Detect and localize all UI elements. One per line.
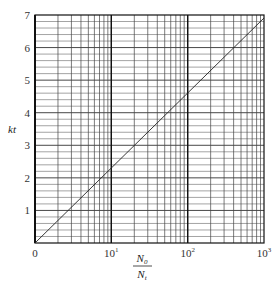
y-tick-label: 6 <box>25 42 31 54</box>
semilog-chart: 1234567 0101102103 kt N0 Nt <box>0 0 278 291</box>
y-tick-label: 1 <box>25 204 31 216</box>
svg-text:N0: N0 <box>136 252 148 266</box>
x-tick-label: 103 <box>257 246 272 259</box>
x-axis-label: N0 Nt <box>133 252 152 282</box>
y-tick-labels: 1234567 <box>25 9 31 216</box>
y-axis-label: kt <box>8 123 17 135</box>
y-tick-label: 5 <box>25 74 31 86</box>
y-tick-label: 7 <box>25 9 31 21</box>
x-tick-label: 101 <box>104 246 119 259</box>
svg-text:Nt: Nt <box>136 268 147 282</box>
x-tick-label: 102 <box>180 246 195 259</box>
y-tick-label: 4 <box>25 107 31 119</box>
y-tick-label: 2 <box>25 172 31 184</box>
x-tick-label: 0 <box>32 247 38 259</box>
data-line <box>35 18 264 243</box>
x-tick-labels: 0101102103 <box>32 246 272 259</box>
x-label-denominator-sub: t <box>145 274 148 282</box>
y-tick-label: 3 <box>25 139 31 151</box>
x-label-numerator-sub: 0 <box>144 258 148 266</box>
